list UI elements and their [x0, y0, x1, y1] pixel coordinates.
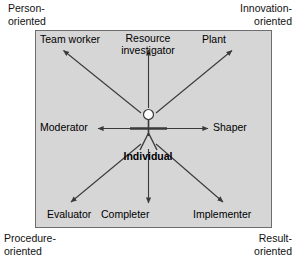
role-label-evaluator: Evaluator	[47, 208, 91, 220]
role-label-team-worker: Team worker	[40, 33, 100, 45]
corner-caption-result-oriented: Result- oriented	[254, 232, 292, 257]
corner-caption-innovation-oriented: Innovation- oriented	[240, 2, 292, 27]
role-label-completer: Completer	[101, 208, 149, 220]
corner-caption-person-oriented: Person- oriented	[8, 2, 46, 27]
corner-caption-procedure-oriented: Procedure- oriented	[4, 232, 56, 257]
role-label-shaper: Shaper	[213, 121, 247, 133]
role-label-resource-investigator: Resource investigator	[121, 32, 175, 56]
center-label-individual: Individual	[123, 150, 172, 162]
role-label-moderator: Moderator	[40, 121, 88, 133]
diagram-canvas: Person- oriented Innovation- oriented Pr…	[0, 0, 298, 272]
role-label-plant: Plant	[202, 33, 226, 45]
role-label-implementer: Implementer	[193, 208, 251, 220]
